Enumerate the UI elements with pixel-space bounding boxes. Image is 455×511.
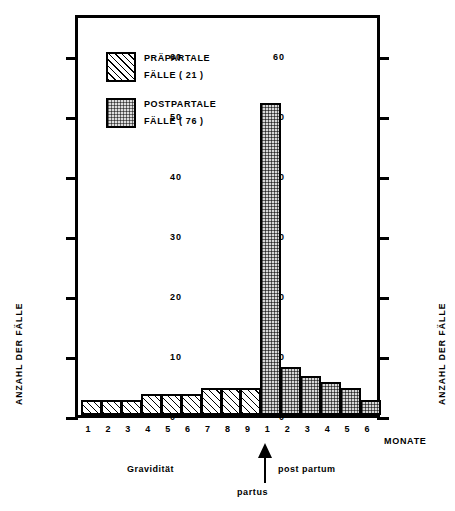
bar-prepartal-2: [101, 400, 122, 415]
bar-series-container: [78, 18, 377, 415]
x-tick-label-8: 9: [238, 424, 256, 434]
x-tick-label-4: 5: [159, 424, 177, 434]
y-tick-right-60: [377, 57, 389, 60]
x-tick-label-11: 3: [298, 424, 316, 434]
x-tick-label-12: 4: [318, 424, 336, 434]
plot-area: 00101020203030404050506060 PRÄPARTALE FÄ…: [75, 15, 380, 418]
bar-prepartal-5: [161, 394, 182, 415]
caption-partus: partus: [237, 487, 268, 497]
y-tick-right-0: [377, 417, 389, 420]
y-tick-left-60: [66, 57, 78, 60]
bar-prepartal-4: [141, 394, 162, 415]
bar-prepartal-6: [181, 394, 202, 415]
arrow-shaft: [264, 455, 266, 483]
y-tick-left-0: [66, 417, 78, 420]
x-tick-label-5: 6: [179, 424, 197, 434]
y-tick-right-40: [377, 177, 389, 180]
x-tick-label-6: 7: [199, 424, 217, 434]
x-tick-label-13: 5: [338, 424, 356, 434]
bar-postpartal-3: [300, 376, 321, 415]
y-axis-title-left: ANZAHL DER FÄLLE: [14, 303, 24, 405]
bar-postpartal-4: [320, 382, 341, 415]
bar-prepartal-1: [81, 400, 102, 415]
x-axis-labels: 123456789123456: [75, 424, 380, 438]
y-tick-left-10: [66, 357, 78, 360]
y-tick-left-50: [66, 117, 78, 120]
y-tick-right-10: [377, 357, 389, 360]
x-tick-label-0: 1: [79, 424, 97, 434]
y-tick-right-30: [377, 237, 389, 240]
x-tick-label-3: 4: [139, 424, 157, 434]
x-tick-label-9: 1: [258, 424, 276, 434]
x-tick-label-2: 3: [119, 424, 137, 434]
x-tick-label-10: 2: [278, 424, 296, 434]
partus-arrow-icon: [258, 443, 272, 483]
chart-figure: ANZAHL DER FÄLLE ANZAHL DER FÄLLE 001010…: [0, 0, 455, 511]
bar-prepartal-3: [121, 400, 142, 415]
bar-postpartal-5: [340, 388, 361, 415]
x-axis-unit-label: MONATE: [384, 436, 427, 446]
x-tick-label-14: 6: [358, 424, 376, 434]
bar-prepartal-8: [221, 388, 242, 415]
x-tick-label-7: 8: [219, 424, 237, 434]
bar-postpartal-1: [260, 103, 281, 415]
y-tick-right-20: [377, 297, 389, 300]
y-axis-title-right: ANZAHL DER FÄLLE: [437, 303, 447, 405]
x-tick-label-1: 2: [99, 424, 117, 434]
bar-postpartal-2: [280, 367, 301, 415]
bar-prepartal-9: [240, 388, 261, 415]
caption-gravidity: Gravidität: [127, 464, 174, 474]
y-tick-left-30: [66, 237, 78, 240]
bar-postpartal-6: [360, 400, 381, 415]
caption-post-partum: post partum: [278, 464, 336, 474]
y-tick-left-40: [66, 177, 78, 180]
bar-prepartal-7: [201, 388, 222, 415]
y-tick-left-20: [66, 297, 78, 300]
y-tick-right-50: [377, 117, 389, 120]
